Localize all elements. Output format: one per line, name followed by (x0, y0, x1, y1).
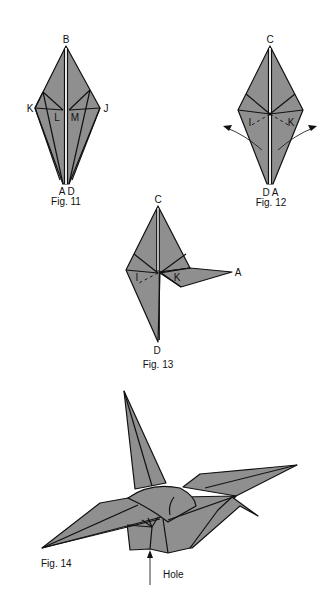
fig14-caption: Fig. 14 (41, 558, 72, 569)
fig13-label-i: I (136, 272, 139, 283)
crane-neck (124, 391, 166, 489)
fig12-arrowhead-left (223, 125, 232, 131)
fig11-label-m: M (71, 112, 79, 123)
fig12-arrowhead-right (308, 125, 317, 131)
fig13-label-d: D (153, 345, 160, 356)
hole-label: Hole (163, 569, 184, 580)
hole-arrowhead (147, 550, 153, 558)
fig11-label-j: J (104, 103, 109, 114)
fig11-label-b: B (63, 34, 70, 45)
fig11-caption: Fig. 11 (51, 196, 81, 207)
figure-13: C I K A D Fig. 13 (126, 194, 242, 370)
figure-14-crane: Fig. 14 Hole (41, 391, 297, 585)
fig12-label-c: C (266, 34, 273, 45)
fig11-label-k: K (27, 103, 34, 114)
fig13-caption: Fig. 13 (143, 359, 174, 370)
fig13-label-a: A (235, 267, 242, 278)
fig13-label-c: C (154, 194, 161, 205)
fig13-label-k: K (174, 272, 181, 283)
figure-11: B K J L M A D Fig. 11 (27, 34, 109, 207)
figure-12: C I K D A Fig. 12 (223, 34, 317, 208)
fig12-label-i: I (249, 117, 252, 128)
fig12-caption: Fig. 12 (256, 197, 287, 208)
fig12-label-k: K (288, 117, 295, 128)
origami-crane-instructions: B K J L M A D Fig. 11 C I K D A Fig. 12 (0, 0, 328, 608)
fig11-label-l: L (54, 112, 60, 123)
